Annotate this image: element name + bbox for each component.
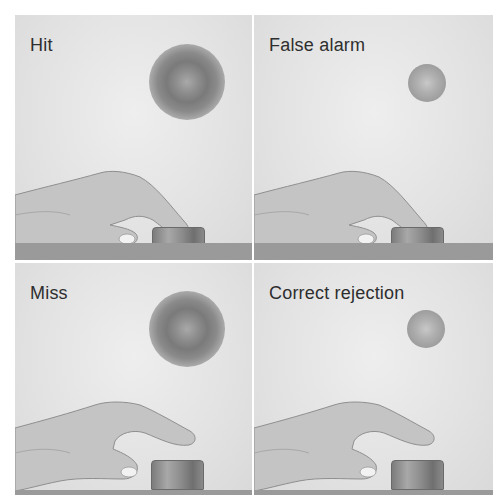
table-surface <box>15 243 252 260</box>
vertical-divider <box>252 15 254 495</box>
panel-false-alarm: False alarm <box>254 15 493 260</box>
response-button-pressed <box>152 227 205 244</box>
panel-miss: Miss <box>15 263 252 495</box>
hand-pressing-icon <box>254 15 493 260</box>
panel-hit: Hit <box>15 15 252 260</box>
response-button-unpressed <box>391 460 444 490</box>
header-strip <box>0 0 500 15</box>
hand-hovering-icon <box>15 263 252 495</box>
response-button-pressed <box>391 227 444 244</box>
hand-pressing-icon <box>15 15 252 260</box>
hand-hovering-icon <box>254 263 493 495</box>
table-surface <box>15 490 252 495</box>
panel-correct-rejection: Correct rejection <box>254 263 493 495</box>
response-button-unpressed <box>151 460 204 490</box>
table-surface <box>254 490 493 495</box>
table-surface <box>254 243 493 260</box>
horizontal-divider <box>15 260 493 263</box>
